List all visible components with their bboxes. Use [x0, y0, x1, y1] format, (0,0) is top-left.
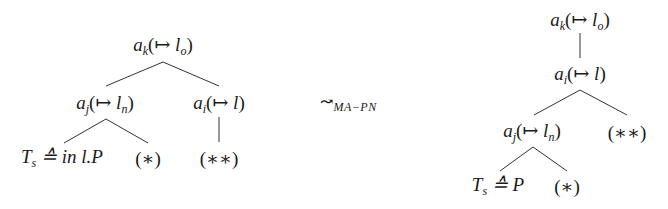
edge-ai-aj: [534, 90, 580, 115]
node-var: a: [133, 34, 143, 55]
edge-aj-ts-r: [500, 147, 533, 171]
edge-ai-dstar-r: [580, 90, 627, 115]
node-mapsto: (↦: [516, 120, 543, 141]
node-close: ): [127, 92, 133, 113]
squiggle-arrow-icon: ↝: [320, 93, 333, 110]
right-ai-node: ai(↦ l): [554, 64, 605, 86]
left-ai-node: ai(↦ l): [193, 93, 244, 115]
edge-aj-star-r: [533, 147, 567, 171]
node-close: ): [186, 34, 192, 55]
node-mapsto: (↦: [565, 9, 592, 30]
right-aj-node: aj(↦ ln): [503, 121, 560, 143]
left-star-leaf: (∗): [135, 149, 161, 168]
transformation-label: MA−PN: [333, 100, 376, 114]
node-mapsto: (↦: [206, 92, 233, 113]
left-dstar-leaf: (∗∗): [200, 149, 238, 168]
node-var: a: [554, 63, 564, 84]
left-ts-leaf: Ts ≙ in l.P: [21, 147, 103, 169]
node-close: ): [554, 120, 560, 141]
node-var: a: [550, 9, 560, 30]
leaf-var: T: [472, 174, 483, 195]
leaf-rest: ≙ P: [487, 174, 524, 195]
right-ts-leaf: Ts ≙ P: [472, 175, 524, 197]
node-close: ): [603, 9, 609, 30]
left-root-node: ak(↦ lo): [133, 35, 192, 57]
leaf-var: T: [21, 146, 32, 167]
node-mapsto: (↦: [89, 92, 116, 113]
edge-lroot-aj: [106, 62, 163, 86]
edge-aj-ts: [64, 119, 106, 143]
right-star-leaf: (∗): [554, 177, 580, 196]
right-dstar-leaf: (∗∗): [608, 123, 646, 142]
node-var: a: [76, 92, 86, 113]
node-var: a: [193, 92, 203, 113]
node-close: ): [238, 92, 244, 113]
edge-aj-star: [106, 119, 148, 143]
node-var: a: [503, 120, 513, 141]
leaf-rest: ≙ in l.P: [36, 146, 103, 167]
transformation-arrow: ↝MA−PN: [320, 92, 377, 115]
edge-lroot-ai: [163, 62, 219, 86]
right-root-node: ak(↦ lo): [550, 10, 609, 32]
left-aj-node: aj(↦ ln): [76, 93, 133, 115]
node-mapsto: (↦: [148, 34, 175, 55]
node-close: ): [599, 63, 605, 84]
node-mapsto: (↦: [567, 63, 594, 84]
